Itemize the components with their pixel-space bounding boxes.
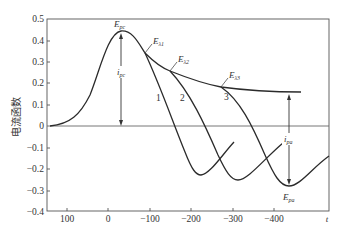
el2-label: Eλ2 [177,54,189,65]
cyclic-voltammogram-chart: 0.5 0.4 0.3 0.2 0.1 0 −0.1 −0.2 −0.3 −0.… [0,0,342,235]
y-tick-label: 0.5 [32,14,44,24]
y-tick-label: −0.2 [27,164,44,174]
y-tick-label: 0.3 [32,57,44,67]
curve-1-label: 1 [156,93,161,103]
y-tick-label: 0.2 [32,78,44,88]
x-tick-label: −300 [223,214,243,224]
el3-leader [221,78,228,87]
x-tick-label: −400 [264,214,284,224]
el1-label: Eλ1 [152,36,164,47]
reverse-curve-1 [145,53,234,175]
curve-2-label: 2 [180,93,185,103]
epc-label: Epc [113,19,126,30]
x-tick-label: 0 [106,214,111,224]
y-tick-label: −0.4 [27,207,44,217]
forward-scan-curve [50,31,301,126]
y-tick-label: 0 [39,121,44,131]
y-tick-label: 0.1 [32,100,44,110]
x-tick-label: −200 [181,214,201,224]
x-tick-label: 100 [60,214,75,224]
y-axis: 0.5 0.4 0.3 0.2 0.1 0 −0.1 −0.2 −0.3 −0.… [27,14,50,217]
curve-3-label: 3 [224,92,229,102]
plot-frame [47,19,329,211]
epa-label: Epa [282,192,295,203]
x-axis: 100 0 −100 −200 −300 −400 t [60,208,329,224]
el2-leader [170,62,177,71]
y-tick-label: −0.1 [27,143,44,153]
ipc-arrow [119,33,123,126]
y-tick-label: 0.4 [32,36,44,46]
x-axis-label: t [326,214,329,224]
reverse-curve-3 [221,87,329,186]
el3-label: Eλ3 [228,70,240,81]
y-tick-label: −0.3 [27,186,44,196]
y-axis-label: 电流函数 [10,97,22,137]
x-tick-label: −100 [140,214,160,224]
el1-leader [145,44,152,53]
